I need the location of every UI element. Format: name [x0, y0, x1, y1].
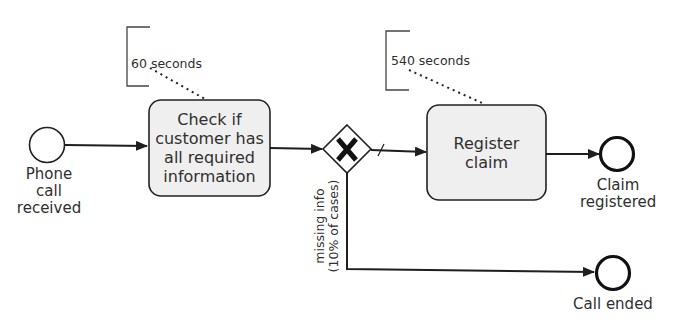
- start-label-line1: Phone call: [12, 166, 86, 200]
- sequence-flow-start-to-check[interactable]: [65, 145, 147, 146]
- sequence-flow-gateway-to-register[interactable]: [371, 150, 426, 152]
- annotation-60s-text: 60 seconds: [131, 56, 202, 71]
- end-event-claim-label: Claim registered: [580, 177, 656, 211]
- condition-missing-info-label: missing info (10% of cases): [313, 178, 341, 274]
- claim-label-line2: registered: [580, 194, 656, 211]
- condition-line1: missing info: [313, 178, 327, 274]
- end-event-call-ended-label: Call ended: [568, 296, 658, 313]
- task-register-label: Register claim: [430, 107, 543, 198]
- sequence-flow-check-to-gateway[interactable]: [270, 148, 322, 149]
- start-event-label: Phone call received: [12, 166, 86, 217]
- start-event-circle[interactable]: [30, 128, 65, 163]
- end-event-call-ended-circle[interactable]: [597, 257, 630, 290]
- task-check-label: Check if customer has all required infor…: [152, 102, 267, 194]
- bpmn-canvas: [0, 0, 677, 324]
- condition-line2: (10% of cases): [327, 178, 341, 274]
- claim-label-line1: Claim: [580, 177, 656, 194]
- start-label-line2: received: [12, 200, 86, 217]
- end-event-claim-circle[interactable]: [601, 138, 634, 171]
- annotation-540s-text: 540 seconds: [391, 53, 470, 68]
